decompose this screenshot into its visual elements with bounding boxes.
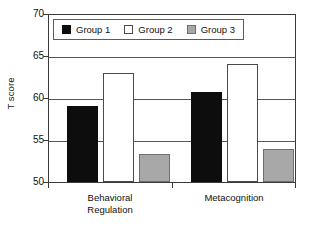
x-category-label-line1: Metacognition <box>172 192 296 204</box>
x-tick-mark-right <box>295 183 296 188</box>
y-tick-label-55: 55 <box>22 135 44 145</box>
y-tick-label-50: 50 <box>22 177 44 187</box>
legend-entry-group-2: Group 2 <box>124 25 172 35</box>
chart-legend: Group 1 Group 2 Group 3 <box>53 19 244 40</box>
legend-swatch-icon-group-3 <box>187 25 196 34</box>
bar-chart-figure: T score 70 65 60 55 50 Group 1 Group 2 <box>0 0 313 225</box>
y-axis-tick-labels: 70 65 60 55 50 <box>18 0 44 225</box>
legend-entry-group-3: Group 3 <box>187 25 235 35</box>
x-category-label-behavioral-regulation: Behavioral Regulation <box>48 192 172 215</box>
bar-group2-behavioral-regulation <box>103 73 134 182</box>
x-tick-mark-left <box>48 183 49 188</box>
legend-label-group-1: Group 1 <box>76 25 110 35</box>
x-category-label-metacognition: Metacognition <box>172 192 296 204</box>
bar-group1-metacognition <box>191 92 222 182</box>
bar-group2-metacognition <box>227 64 258 182</box>
x-tick-mark-middle <box>172 183 173 188</box>
legend-label-group-2: Group 2 <box>138 25 172 35</box>
bar-group1-behavioral-regulation <box>67 106 98 182</box>
x-category-label-line1: Behavioral <box>48 192 172 204</box>
x-category-label-line2: Regulation <box>48 204 172 216</box>
legend-label-group-3: Group 3 <box>201 25 235 35</box>
legend-entry-group-1: Group 1 <box>62 25 110 35</box>
y-tick-label-65: 65 <box>22 51 44 61</box>
y-tick-label-60: 60 <box>22 93 44 103</box>
y-axis-title: T score <box>5 64 16 124</box>
legend-swatch-icon-group-1 <box>62 25 71 34</box>
gridline-60 <box>49 99 295 100</box>
bar-group3-behavioral-regulation <box>139 154 170 182</box>
legend-swatch-icon-group-2 <box>124 25 133 34</box>
gridline-65 <box>49 57 295 58</box>
bar-group3-metacognition <box>263 149 294 182</box>
y-tick-label-70: 70 <box>22 9 44 19</box>
